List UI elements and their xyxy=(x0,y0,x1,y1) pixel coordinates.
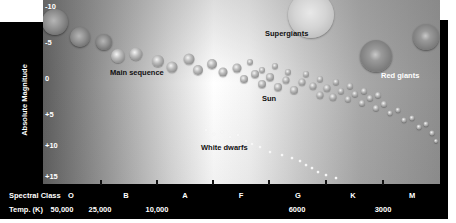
x-tickmark xyxy=(268,180,270,185)
star-wd xyxy=(237,134,240,137)
temperature-label: 3000 xyxy=(375,205,392,214)
star-ms xyxy=(430,131,435,136)
star-ms xyxy=(361,88,367,94)
temperature-title: Temp. (K) xyxy=(9,205,43,214)
star-ms xyxy=(247,59,253,65)
region-label: White dwarfs xyxy=(201,143,248,152)
star-ms xyxy=(285,69,291,75)
star-ms xyxy=(258,80,266,88)
y-tick-label: -5 xyxy=(45,38,52,47)
star-ms xyxy=(367,95,373,101)
star-wd xyxy=(305,164,308,167)
star-ms xyxy=(396,108,401,113)
star-ms xyxy=(410,116,415,121)
star-ms xyxy=(219,68,228,77)
spectral-class-label: G xyxy=(295,191,301,200)
star-wd xyxy=(221,131,224,134)
x-tickmark xyxy=(325,180,327,185)
spectral-class-label: B xyxy=(123,191,128,200)
star-ms xyxy=(388,111,393,116)
y-tick-label: +15 xyxy=(45,172,58,181)
region-label: Main sequence xyxy=(110,68,164,77)
star-ms xyxy=(402,118,407,123)
star-ms xyxy=(233,64,242,73)
star-wd xyxy=(213,133,216,136)
star-ms xyxy=(111,49,125,63)
star-wd xyxy=(335,177,338,180)
star-wd xyxy=(317,171,320,174)
star-ms xyxy=(167,62,178,73)
star-wd xyxy=(291,157,294,160)
spectral-class-label: K xyxy=(350,191,355,200)
star-ms xyxy=(310,83,317,90)
star-ms xyxy=(290,86,298,94)
y-tick-label: +10 xyxy=(45,141,58,150)
star-big xyxy=(96,34,112,50)
star-ms xyxy=(417,125,422,130)
star-giant xyxy=(360,40,392,72)
star-ms xyxy=(266,73,274,81)
spectral-class-title: Spectral Class xyxy=(9,191,61,200)
star-ms xyxy=(259,67,265,73)
region-label: Supergiants xyxy=(265,29,308,38)
star-ms xyxy=(274,83,282,91)
temperature-label: 10,000 xyxy=(146,205,169,214)
star-ms xyxy=(333,79,339,85)
star-ms xyxy=(184,54,195,65)
star-ms xyxy=(359,100,365,106)
spectral-class-label: F xyxy=(239,191,244,200)
hr-diagram-plot-area: Main sequenceSupergiantsRed giantsSunWhi… xyxy=(43,0,440,184)
y-axis-title: Absolute Magnitude xyxy=(20,64,29,136)
star-wd xyxy=(325,174,328,177)
star-ms xyxy=(338,88,344,94)
star-ms xyxy=(130,48,143,61)
star-ms xyxy=(207,59,217,69)
star-ms xyxy=(317,92,324,99)
spectral-class-label: M xyxy=(409,191,415,200)
region-label: Sun xyxy=(262,94,276,103)
temperature-label: 50,000 xyxy=(51,205,74,214)
star-ms xyxy=(272,63,278,69)
temperature-label: 6000 xyxy=(289,205,306,214)
diagram-frame-right-edge xyxy=(440,20,448,219)
star-ms xyxy=(240,75,248,83)
star-ms xyxy=(317,76,323,82)
spectral-class-label: O xyxy=(68,191,74,200)
star-wd xyxy=(299,160,302,163)
star-ms xyxy=(424,122,429,127)
star-wd xyxy=(281,154,284,157)
star-wd xyxy=(205,129,208,132)
star-wd xyxy=(259,146,262,149)
spectral-class-label: A xyxy=(182,191,187,200)
star-ms xyxy=(345,96,351,102)
star-ms xyxy=(193,65,203,75)
star-wd xyxy=(251,143,254,146)
star-ms xyxy=(352,91,358,97)
star-ms xyxy=(330,94,337,101)
x-tickmark xyxy=(156,180,158,185)
star-ms xyxy=(303,71,309,77)
star-big xyxy=(70,27,90,47)
star-ms xyxy=(251,70,259,78)
region-label: Red giants xyxy=(381,71,419,80)
x-tickmark xyxy=(382,180,384,185)
star-ms xyxy=(381,101,387,107)
plot-shading xyxy=(43,0,440,184)
x-tickmark xyxy=(100,180,102,185)
star-wd xyxy=(311,167,314,170)
x-tickmark xyxy=(212,180,214,185)
star-giant xyxy=(413,24,439,50)
star-ms xyxy=(324,85,331,92)
star-ms xyxy=(375,92,381,98)
y-tick-label: -10 xyxy=(45,2,56,11)
star-ms xyxy=(347,83,353,89)
star-ms xyxy=(152,55,164,67)
star-ms xyxy=(373,105,379,111)
y-tick-label: +5 xyxy=(45,110,54,119)
star-wd xyxy=(269,151,272,154)
star-ms xyxy=(299,79,306,86)
star-wd xyxy=(229,136,232,139)
y-tick-label: 0 xyxy=(45,74,49,83)
temperature-label: 25,000 xyxy=(89,205,112,214)
star-ms xyxy=(434,139,438,143)
